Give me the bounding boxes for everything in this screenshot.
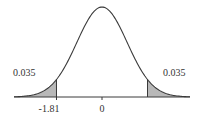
center-label: 0 (100, 103, 105, 114)
density-curve (14, 7, 190, 97)
right-area-label: 0.035 (163, 67, 186, 78)
left-area-label: 0.035 (13, 67, 36, 78)
normal-distribution-chart: 0.035 0.035 -1.81 0 (0, 0, 197, 121)
left-bound-label: -1.81 (39, 103, 60, 114)
